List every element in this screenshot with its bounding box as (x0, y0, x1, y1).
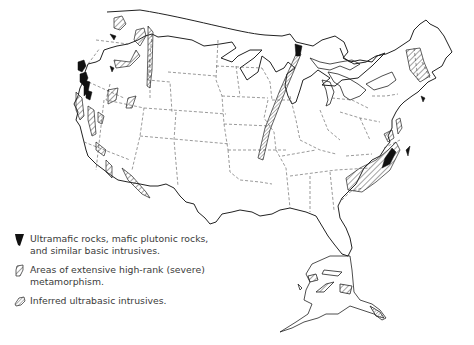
inferred-intrusive-belt (258, 52, 301, 160)
legend-item-inferred-intrusives: Inferred ultrabasic intrusives. (14, 295, 214, 307)
legend-item-metamorphism: Areas of extensive high-rank (severe) me… (14, 264, 214, 287)
hatched-swatch-icon (14, 264, 25, 278)
fine-hatched-swatch-icon (14, 295, 26, 307)
legend-label: Inferred ultrabasic intrusives. (30, 295, 167, 306)
alaska-outline (280, 256, 386, 332)
conterminous-us-outline (74, 10, 452, 256)
solid-black-swatch-icon (14, 233, 25, 247)
legend-label: Areas of extensive high-rank (severe) me… (30, 264, 205, 287)
map-legend: Ultramafic rocks, mafic plutonic rocks, … (14, 233, 214, 315)
legend-item-ultramafic: Ultramafic rocks, mafic plutonic rocks, … (14, 233, 214, 256)
legend-label: Ultramafic rocks, mafic plutonic rocks, … (30, 233, 208, 256)
